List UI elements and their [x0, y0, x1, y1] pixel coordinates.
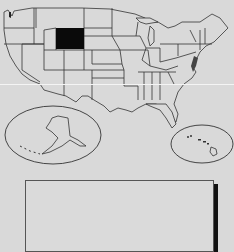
- hawaii-islands: [187, 135, 217, 156]
- aleutian-islands: [20, 146, 40, 154]
- scan-artifact-line: [0, 84, 234, 85]
- legend-box: [25, 180, 214, 252]
- alaska-shape: [42, 116, 86, 154]
- state-wyoming-highlighted[interactable]: [56, 28, 84, 49]
- puget-sound: [9, 12, 11, 18]
- alaska-inset-oval: [5, 106, 101, 164]
- hawaii-inset-oval: [171, 125, 233, 163]
